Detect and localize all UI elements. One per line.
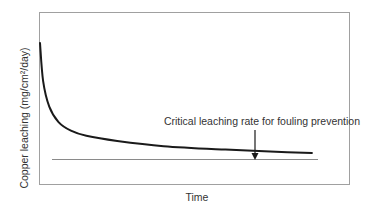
annotation-arrow-head-icon	[252, 153, 259, 160]
chart: Critical leaching rate for fouling preve…	[0, 0, 368, 205]
annotation-label: Critical leaching rate for fouling preve…	[164, 115, 360, 127]
y-axis-label: Copper leaching (mg/cm²/day)	[18, 47, 30, 188]
copper-leaching-curve	[40, 43, 312, 153]
x-axis-label: Time	[186, 191, 209, 203]
plot-frame	[40, 13, 350, 185]
